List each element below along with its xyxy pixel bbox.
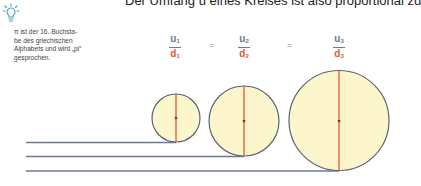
center-mark-icon: × — [174, 115, 178, 121]
circle-1: × — [152, 94, 200, 142]
circle-2: × — [209, 86, 279, 156]
circle-3: × — [289, 71, 389, 171]
center-mark-icon: × — [337, 118, 341, 124]
center-mark-icon: × — [242, 118, 246, 124]
